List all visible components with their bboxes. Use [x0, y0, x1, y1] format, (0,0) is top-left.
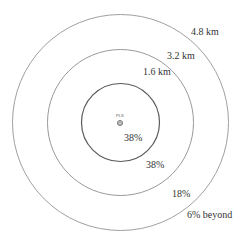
share-label-outer: 18% [172, 189, 190, 199]
center-label: PLS [116, 114, 124, 118]
radius-label-4-8-km: 4.8 km [191, 27, 219, 37]
share-label-beyond: 6% beyond [187, 210, 232, 220]
center-circle-plus-icon [117, 120, 123, 126]
share-label-middle: 38% [146, 160, 164, 170]
radius-label-1-6-km: 1.6 km [143, 67, 171, 77]
radius-label-3-2-km: 3.2 km [167, 51, 195, 61]
share-label-inner: 38% [124, 133, 142, 143]
